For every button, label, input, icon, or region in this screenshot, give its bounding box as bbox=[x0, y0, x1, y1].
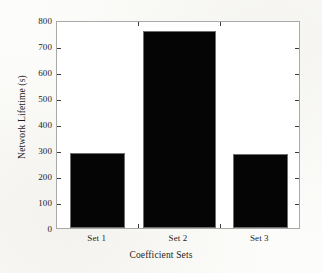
x-axis-tick-label: Set 2 bbox=[169, 233, 188, 243]
y-axis-tick-mark bbox=[295, 74, 299, 75]
x-axis-title: Coefficient Sets bbox=[0, 250, 322, 260]
y-axis-tick-mark bbox=[57, 126, 61, 127]
y-axis-tick-label: 600 bbox=[38, 68, 52, 78]
y-axis-tick-label: 100 bbox=[38, 198, 52, 208]
bar-set-2 bbox=[143, 31, 216, 228]
y-axis-tick-label: 0 bbox=[47, 224, 52, 234]
y-axis-tick-mark bbox=[57, 178, 61, 179]
y-axis-tick-label: 800 bbox=[38, 16, 52, 26]
y-axis-tick-label: 300 bbox=[38, 146, 52, 156]
y-axis-tick-label: 200 bbox=[38, 172, 52, 182]
y-axis-tick-label: 700 bbox=[38, 42, 52, 52]
x-axis-tick-mark bbox=[138, 22, 139, 26]
y-axis-tick-mark bbox=[57, 48, 61, 49]
y-axis-tick-mark bbox=[295, 178, 299, 179]
y-axis-tick-mark bbox=[57, 152, 61, 153]
y-axis-tick-mark bbox=[57, 204, 61, 205]
x-axis-tick-label: Set 3 bbox=[250, 233, 269, 243]
y-axis-tick-label: 500 bbox=[38, 94, 52, 104]
x-axis-tick-mark bbox=[220, 22, 221, 26]
y-axis-tick-label: 400 bbox=[38, 120, 52, 130]
bar-set-3 bbox=[233, 154, 288, 228]
bar-set-1 bbox=[70, 153, 125, 228]
y-axis-tick-mark bbox=[295, 204, 299, 205]
x-axis-tick-label: Set 1 bbox=[87, 233, 106, 243]
x-axis-tick-mark bbox=[220, 224, 221, 228]
y-axis-title: Network Lifetime (s) bbox=[17, 37, 27, 197]
y-axis-tick-mark bbox=[57, 74, 61, 75]
y-axis-tick-mark bbox=[295, 100, 299, 101]
y-axis-tick-mark bbox=[295, 126, 299, 127]
y-axis-tick-mark bbox=[295, 152, 299, 153]
y-axis-tick-labels: 0100200300400500600700800 bbox=[26, 21, 52, 229]
x-axis-tick-mark bbox=[138, 224, 139, 228]
y-axis-tick-mark bbox=[57, 100, 61, 101]
y-axis-tick-mark bbox=[295, 48, 299, 49]
plot-area bbox=[56, 21, 300, 229]
bar-chart-figure: 0100200300400500600700800 Network Lifeti… bbox=[0, 0, 322, 273]
